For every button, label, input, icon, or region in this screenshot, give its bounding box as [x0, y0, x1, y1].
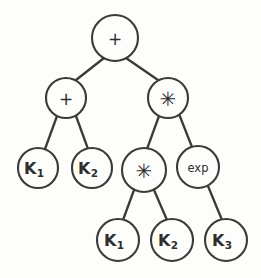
node-label: +	[108, 29, 122, 49]
expression-tree-figure: ++✳K1K2✳expK1K2K3	[0, 0, 261, 278]
tree-node-plus[interactable]: +	[46, 78, 86, 118]
tree-node-plus[interactable]: +	[92, 15, 138, 61]
tree-edge	[123, 190, 134, 220]
node-label: exp	[188, 161, 209, 175]
node-label: ✳	[160, 87, 177, 111]
tree-node-exp[interactable]: exp	[177, 146, 219, 188]
tree-edge	[154, 190, 167, 220]
tree-edge	[147, 116, 159, 149]
tree-edge	[76, 116, 88, 149]
tree-edge	[179, 114, 192, 147]
tree-nodes-group: ++✳K1K2✳expK1K2K3	[18, 15, 247, 261]
tree-node-k-two[interactable]: K2	[151, 219, 193, 261]
tree-edge	[76, 58, 104, 80]
tree-edge	[45, 116, 57, 149]
tree-node-k-one[interactable]: K1	[97, 219, 139, 261]
node-label: +	[59, 89, 73, 109]
tree-edge	[126, 58, 158, 80]
tree-node-asterisk[interactable]: ✳	[122, 148, 166, 192]
node-label: ✳	[136, 159, 153, 183]
tree-node-k-two[interactable]: K2	[72, 148, 112, 188]
tree-edge	[208, 186, 222, 220]
expression-tree-canvas: ++✳K1K2✳expK1K2K3	[0, 0, 261, 278]
tree-node-k-three[interactable]: K3	[205, 219, 247, 261]
tree-node-k-one[interactable]: K1	[18, 148, 58, 188]
tree-node-asterisk[interactable]: ✳	[148, 78, 188, 118]
